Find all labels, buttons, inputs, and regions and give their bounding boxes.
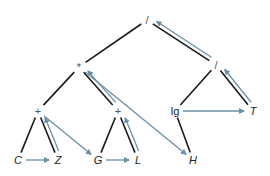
tree-edge-lg-H xyxy=(177,118,190,153)
node-L: L xyxy=(135,154,141,166)
traversal-arrows xyxy=(26,22,251,160)
node-plus1: + xyxy=(35,105,41,117)
tree-edge-div2-lg xyxy=(180,70,211,105)
node-H: H xyxy=(189,154,197,166)
tree-edge-mul-plus1 xyxy=(43,72,74,105)
node-T: T xyxy=(250,105,258,117)
tree-edge-root-div2 xyxy=(153,24,209,61)
tree-edge-root-mul xyxy=(86,24,142,62)
traversal-arrow-T-div2 xyxy=(225,70,251,103)
expression-tree-diagram: /*/++lgTCZGLH xyxy=(0,0,270,176)
node-mul: * xyxy=(77,61,82,73)
traversal-arrow-plus2-mul xyxy=(88,71,116,102)
traversal-arrow-div2-root xyxy=(157,22,212,58)
traversal-arrow-plus1-G xyxy=(44,116,91,154)
tree-edge-mul-plus2 xyxy=(84,72,113,105)
tree-edge-plus1-C xyxy=(21,117,35,152)
node-root: / xyxy=(145,14,149,26)
node-G: G xyxy=(94,154,103,166)
node-plus2: + xyxy=(115,105,121,117)
tree-edge-div2-T xyxy=(220,70,248,104)
node-C: C xyxy=(14,154,22,166)
tree-edge-plus2-G xyxy=(101,117,115,152)
node-lg: lg xyxy=(171,105,180,117)
node-Z: Z xyxy=(54,154,63,166)
tree-edges xyxy=(21,24,248,153)
node-div2: / xyxy=(214,59,218,71)
